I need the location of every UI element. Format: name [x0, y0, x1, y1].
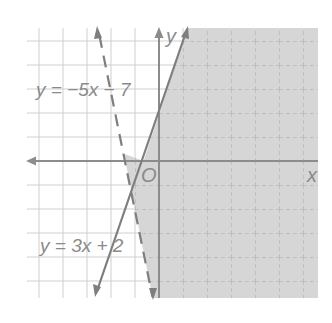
x-axis-arrow-icon	[26, 157, 36, 166]
y-axis-arrow-icon	[155, 27, 164, 38]
arrow-up-icon	[94, 26, 102, 39]
y-axis-label: y	[164, 25, 177, 47]
shaded-region	[124, 28, 318, 298]
line2-equation-label: y = 3x + 2	[38, 235, 124, 256]
coordinate-graph: y x O y = −5x − 7 y = 3x + 2	[0, 0, 332, 323]
x-axis-label: x	[306, 164, 318, 186]
line1-equation-label: y = −5x − 7	[34, 79, 132, 100]
arrow-up-icon	[181, 26, 189, 39]
origin-label: O	[141, 164, 157, 186]
